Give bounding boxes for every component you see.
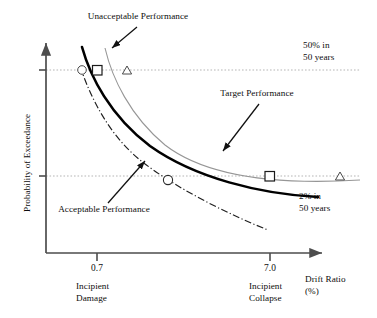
annotation-target-performance: Target Performance (220, 88, 293, 100)
x-axis-title-line2: (%) (305, 286, 319, 298)
x-axis-title-line1: Drift Ratio (305, 274, 346, 286)
hazard-label-50pct-line1: 50% in (303, 40, 330, 52)
annotation-acceptable-performance: Acceptable Performance (58, 204, 150, 216)
x-tick-label-7-0: 7.0 (264, 263, 276, 275)
x-tick-caption-incipient-damage-line1: Incipient (76, 281, 109, 293)
x-axis (46, 253, 322, 261)
x-tick-caption-incipient-collapse-line1: Incipient (249, 281, 282, 293)
hazard-label-2pct-line1: 2% in (299, 191, 321, 203)
y-axis-title: Probability of Exceedance (22, 114, 34, 212)
marker-circle-lower (163, 175, 172, 184)
acceptable-performance-arrow (108, 161, 145, 203)
series-unacceptable-performance (105, 48, 360, 181)
marker-square-upper (93, 66, 103, 76)
x-tick-caption-incipient-damage-line2: Damage (76, 293, 107, 305)
target-performance-arrow (223, 104, 259, 151)
annotation-unacceptable-performance: Unacceptable Performance (88, 11, 188, 23)
x-tick-label-0-7: 0.7 (91, 263, 103, 275)
performance-curve-chart: Unacceptable Performance Target Performa… (0, 0, 377, 318)
unacceptable-performance-arrow (112, 27, 137, 48)
hazard-label-2pct-line2: 50 years (299, 203, 330, 215)
x-tick-caption-incipient-collapse-line2: Collapse (249, 293, 282, 305)
y-axis (39, 43, 46, 253)
marker-square-lower (265, 172, 275, 182)
hazard-label-50pct-line2: 50 years (303, 52, 334, 64)
marker-circle-upper (78, 66, 87, 75)
